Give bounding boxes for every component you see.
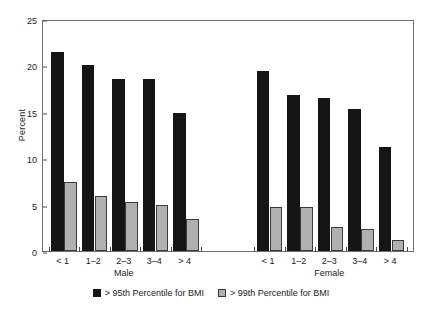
x-tick-mark xyxy=(79,247,80,252)
legend-label: > 99th Percentile for BMI xyxy=(230,288,329,298)
chart-legend: > 95th Percentile for BMI> 99th Percenti… xyxy=(0,288,422,298)
x-tick-mark xyxy=(346,247,347,252)
group-label-male: Male xyxy=(114,268,134,278)
x-tick-mark xyxy=(254,247,255,252)
x-tick-mark xyxy=(376,247,377,252)
legend-item: > 95th Percentile for BMI xyxy=(93,288,204,298)
legend-label: > 95th Percentile for BMI xyxy=(105,288,204,298)
x-category-label: > 4 xyxy=(178,256,191,266)
x-tick-mark xyxy=(49,247,50,252)
x-category-label: < 1 xyxy=(56,256,69,266)
x-axis-ticks xyxy=(43,21,413,251)
light-swatch-icon xyxy=(218,289,226,297)
y-axis-title: Percent xyxy=(17,85,27,165)
y-tick-label: 20 xyxy=(27,62,43,72)
x-tick-mark xyxy=(285,247,286,252)
x-category-label: 1–2 xyxy=(291,256,306,266)
bar-chart: Percent 0510152025 < 11–22–33–4> 4< 11–2… xyxy=(0,0,422,312)
x-tick-mark xyxy=(110,247,111,252)
dark-swatch-icon xyxy=(93,289,101,297)
group-label-female: Female xyxy=(314,268,344,278)
x-tick-mark xyxy=(140,247,141,252)
y-tick-label: 10 xyxy=(27,155,43,165)
x-category-label: 2–3 xyxy=(322,256,337,266)
legend-item: > 99th Percentile for BMI xyxy=(218,288,329,298)
x-category-label: 3–4 xyxy=(352,256,367,266)
x-tick-mark xyxy=(171,247,172,252)
y-tick-label: 25 xyxy=(27,16,43,26)
y-tick-label: 5 xyxy=(32,202,43,212)
x-category-label: 2–3 xyxy=(116,256,131,266)
x-tick-mark xyxy=(407,247,408,252)
x-category-label: 3–4 xyxy=(147,256,162,266)
x-category-label: > 4 xyxy=(384,256,397,266)
plot-area: 0510152025 xyxy=(42,20,414,252)
y-tick-label: 15 xyxy=(27,109,43,119)
x-category-label: 1–2 xyxy=(86,256,101,266)
x-tick-mark xyxy=(315,247,316,252)
y-tick-label: 0 xyxy=(32,248,43,258)
x-tick-mark xyxy=(201,247,202,252)
y-tick-mark xyxy=(43,253,47,254)
x-category-label: < 1 xyxy=(262,256,275,266)
